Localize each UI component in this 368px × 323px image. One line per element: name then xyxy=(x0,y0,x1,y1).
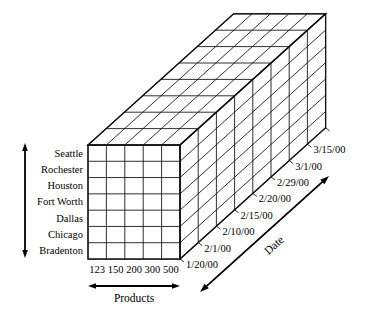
cube-front-face xyxy=(88,145,180,259)
product-label-0: 123 xyxy=(89,264,105,275)
row-label-4: Dallas xyxy=(56,213,83,224)
product-label-2: 200 xyxy=(126,264,142,275)
row-label-6: Bradenton xyxy=(39,245,83,256)
row-label-3: Fort Worth xyxy=(37,196,84,207)
date-label-7: 3/15/00 xyxy=(313,144,345,155)
location-axis-arrow-down xyxy=(22,250,28,258)
date-label-4: 2/20/00 xyxy=(259,193,291,204)
date-label-0: 1/20/00 xyxy=(186,259,218,270)
date-label-3: 2/15/00 xyxy=(241,210,273,221)
products-axis-arrow-right xyxy=(172,283,180,289)
date-label-1: 2/1/00 xyxy=(204,243,231,254)
products-axis-title: Products xyxy=(114,292,155,304)
date-axis-title: Date xyxy=(262,233,286,256)
row-label-1: Rochester xyxy=(41,164,83,175)
row-label-0: Seattle xyxy=(54,148,83,159)
date-label-2: 2/10/00 xyxy=(222,226,254,237)
row-label-2: Houston xyxy=(47,180,83,191)
products-axis-arrow-left xyxy=(88,283,96,289)
data-cube-diagram: SeattleRochesterHoustonFort WorthDallasC… xyxy=(0,0,368,323)
row-label-5: Chicago xyxy=(48,229,83,240)
figure-canvas: SeattleRochesterHoustonFort WorthDallasC… xyxy=(0,0,368,323)
date-label-6: 3/1/00 xyxy=(295,161,322,172)
date-label-5: 2/29/00 xyxy=(277,177,309,188)
product-label-3: 300 xyxy=(145,264,161,275)
location-axis-arrow-up xyxy=(22,143,28,151)
product-label-4: 500 xyxy=(163,264,179,275)
product-label-1: 150 xyxy=(108,264,124,275)
